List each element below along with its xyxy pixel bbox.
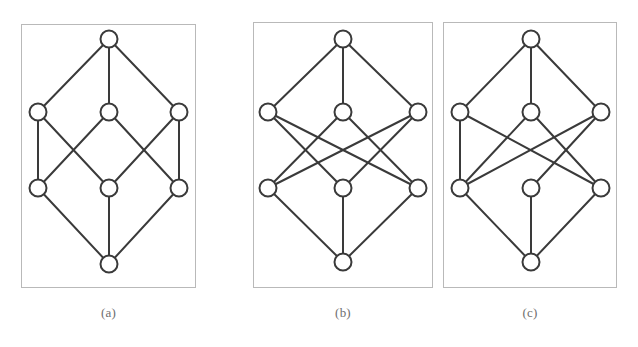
panel-caption: (b) (253, 305, 433, 321)
graph-edge (343, 39, 418, 112)
graph-edge (460, 112, 531, 188)
panel-caption: (a) (21, 305, 196, 321)
graph-panel-a (21, 24, 196, 288)
graph-edge (460, 188, 531, 262)
edge-layer (460, 39, 601, 262)
graph-drawing (21, 24, 196, 288)
graph-edge (268, 188, 343, 262)
graph-node-u-left (452, 104, 469, 121)
panel-caption: (c) (443, 305, 617, 321)
graph-node-top (101, 31, 118, 48)
graph-drawing (253, 22, 433, 288)
graph-node-l-right (410, 180, 427, 197)
graph-edge (38, 188, 109, 264)
graph-edge (268, 39, 343, 112)
graph-node-u-left (260, 104, 277, 121)
graph-node-u-mid (101, 104, 118, 121)
graph-node-bottom (523, 254, 540, 271)
graph-drawing (443, 22, 617, 288)
edge-layer (38, 39, 179, 264)
figure-root: (a)(b)(c) (0, 0, 638, 347)
graph-node-bottom (335, 254, 352, 271)
graph-node-l-mid (101, 180, 118, 197)
graph-edge (109, 188, 179, 264)
graph-node-u-left (30, 104, 47, 121)
graph-node-l-left (30, 180, 47, 197)
edge-layer (268, 39, 418, 262)
graph-node-l-left (452, 180, 469, 197)
graph-node-u-right (593, 104, 610, 121)
graph-node-u-right (171, 104, 188, 121)
graph-edge (38, 39, 109, 112)
graph-node-bottom (101, 256, 118, 273)
graph-node-u-right (410, 104, 427, 121)
graph-node-top (335, 31, 352, 48)
graph-panel-c (443, 22, 617, 288)
graph-node-l-right (593, 180, 610, 197)
graph-node-l-right (171, 180, 188, 197)
graph-node-u-mid (523, 104, 540, 121)
graph-edge (531, 188, 601, 262)
graph-edge (109, 39, 179, 112)
graph-edge (531, 39, 601, 112)
graph-node-top (523, 31, 540, 48)
graph-node-l-left (260, 180, 277, 197)
graph-edge (343, 188, 418, 262)
graph-node-u-mid (335, 104, 352, 121)
graph-panel-b (253, 22, 433, 288)
graph-node-l-mid (335, 180, 352, 197)
graph-edge (460, 39, 531, 112)
graph-node-l-mid (523, 180, 540, 197)
